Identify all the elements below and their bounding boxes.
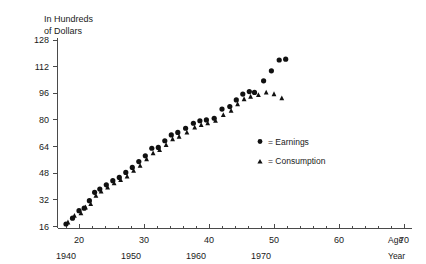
data-point-earnings [234,97,239,102]
x-year-label: 1960 [186,251,206,261]
data-point-earnings [227,104,232,109]
data-point-earnings [175,130,180,135]
y-tick-label: 48 [39,168,49,178]
data-point-earnings [277,57,282,62]
data-point-earnings [252,90,257,95]
legend-label-earnings: = Earnings [268,137,309,147]
legend-marker-consumption-icon [257,159,262,163]
data-point-earnings [261,78,266,83]
data-point-earnings [269,68,274,73]
x-tick-label: 60 [334,235,344,245]
data-point-consumption [242,96,247,101]
legend-label-consumption: = Consumption [268,156,326,166]
data-point-earnings [149,146,154,151]
x-tick-label: 30 [139,235,149,245]
data-point-consumption [279,96,284,101]
legend-marker-earnings-icon [258,139,263,144]
x-year-label: 1970 [251,251,271,261]
x-axis-label-age: Age [388,235,403,245]
x-tick-label: 20 [74,235,84,245]
data-point-earnings [123,170,128,175]
y-axis-ticks [53,40,58,227]
y-tick-label: 32 [39,195,49,205]
x-year-label: 1950 [121,251,141,261]
chart-legend: = Earnings = Consumption [257,137,325,166]
y-tick-label: 80 [39,115,49,125]
chart-canvas: In Hundreds of Dollars 16324864809611212… [0,0,426,264]
y-tick-label: 64 [39,142,49,152]
data-point-earnings [169,132,174,137]
x-axis-label-year: Year [388,251,405,261]
y-tick-label: 128 [34,35,49,45]
data-point-earnings [162,138,167,143]
data-point-consumption [151,150,156,155]
x-tick-label: 40 [204,235,214,245]
data-point-consumption [264,90,269,95]
x-axis-year-labels: 1940195019601970 [56,251,271,261]
x-axis-tick-labels: 203040506070 [74,235,409,245]
data-point-earnings [183,126,188,131]
series-earnings-points [63,57,288,227]
series-consumption-points [66,90,285,225]
data-point-consumption [72,213,77,218]
data-point-consumption [221,112,226,117]
x-axis-ticks [79,224,404,229]
data-point-earnings [240,92,245,97]
y-axis-title-line2: of Dollars [44,26,83,36]
y-tick-label: 96 [39,88,49,98]
data-point-earnings [283,57,288,62]
y-axis-title-line1: In Hundreds [44,14,94,24]
data-point-earnings [247,89,252,94]
data-point-consumption [272,91,277,96]
data-point-earnings [219,107,224,112]
x-tick-label: 50 [269,235,279,245]
x-year-label: 1940 [56,251,76,261]
data-point-consumption [248,94,253,99]
y-tick-label: 16 [39,222,49,232]
data-point-earnings [191,121,196,126]
data-point-earnings [197,118,202,123]
data-point-earnings [136,159,141,164]
y-tick-label: 112 [35,62,49,72]
scatter-chart: In Hundreds of Dollars 16324864809611212… [0,0,426,264]
y-axis-tick-labels: 163248648096112128 [34,35,49,232]
